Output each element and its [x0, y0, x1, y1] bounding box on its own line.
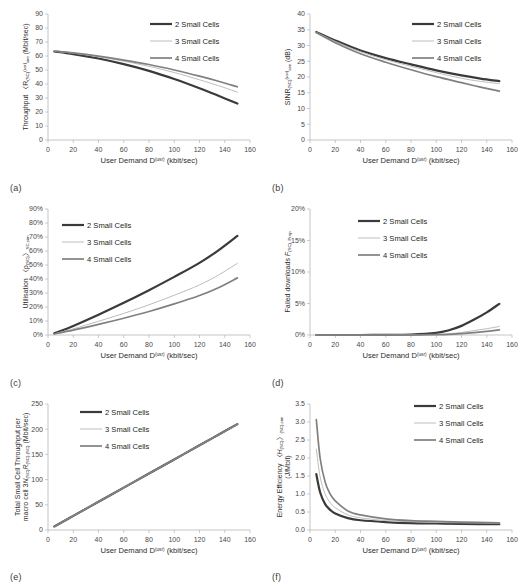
svg-text:3 Small Cells: 3 Small Cells: [383, 234, 428, 243]
svg-text:100: 100: [168, 536, 180, 543]
svg-text:30%: 30%: [29, 289, 43, 296]
svg-text:20%: 20%: [291, 205, 305, 212]
svg-text:120: 120: [194, 341, 206, 348]
svg-text:4 Small Cells: 4 Small Cells: [437, 54, 482, 63]
svg-text:40: 40: [357, 341, 365, 348]
x-axis-label: User Demand D(usr) (kbit/sec): [49, 546, 249, 555]
plot-area-b: 05101520253035400204060801001201401602 S…: [262, 0, 524, 172]
svg-text:10: 10: [297, 105, 305, 112]
svg-text:2 Small Cells: 2 Small Cells: [437, 20, 482, 29]
svg-text:4 Small Cells: 4 Small Cells: [87, 255, 132, 264]
svg-text:1.0: 1.0: [295, 490, 305, 497]
chart-panel-b: 05101520253035400204060801001201401602 S…: [262, 0, 524, 195]
plot-area-e: 0501001502002500204060801001201401602 Sm…: [0, 390, 262, 562]
svg-text:1.5: 1.5: [295, 472, 305, 479]
svg-text:140: 140: [219, 341, 231, 348]
y-axis-label: Energy Efficiency 〈H(SC)〉(SC),sim(J/Mbit…: [276, 392, 292, 542]
y-axis-label: Total Small Cell Throughput permacro cel…: [14, 392, 30, 542]
svg-text:2.5: 2.5: [295, 436, 305, 443]
x-axis-label: User Demand D(usr) (kbit/sec): [311, 546, 511, 555]
svg-text:150: 150: [31, 451, 43, 458]
y-axis-label: Throughput 〈R(SC)(usr)sim (Mbit/sec): [22, 2, 31, 152]
svg-text:0.5: 0.5: [295, 508, 305, 515]
plot-area-a: 0102030405060708090020406080100120140160…: [0, 0, 262, 172]
svg-text:15%: 15%: [291, 237, 305, 244]
svg-text:20: 20: [35, 108, 43, 115]
svg-text:30: 30: [297, 42, 305, 49]
svg-text:160: 160: [506, 146, 518, 153]
svg-text:2 Small Cells: 2 Small Cells: [175, 20, 220, 29]
panel-label: (f): [272, 572, 281, 582]
svg-text:20: 20: [297, 73, 305, 80]
svg-text:20%: 20%: [29, 303, 43, 310]
svg-text:15: 15: [297, 89, 305, 96]
panel-label: (a): [10, 183, 22, 193]
svg-text:100: 100: [430, 536, 442, 543]
svg-text:160: 160: [506, 341, 518, 348]
svg-text:2 Small Cells: 2 Small Cells: [87, 221, 132, 230]
svg-text:120: 120: [456, 536, 468, 543]
svg-text:140: 140: [481, 536, 493, 543]
svg-text:0: 0: [39, 136, 43, 143]
svg-text:100: 100: [430, 341, 442, 348]
svg-text:80: 80: [35, 24, 43, 31]
svg-text:60: 60: [120, 341, 128, 348]
svg-text:4 Small Cells: 4 Small Cells: [383, 251, 428, 260]
svg-text:30: 30: [35, 94, 43, 101]
svg-text:50: 50: [35, 66, 43, 73]
svg-text:60: 60: [382, 341, 390, 348]
svg-text:2 Small Cells: 2 Small Cells: [105, 408, 150, 417]
svg-text:40: 40: [357, 536, 365, 543]
svg-text:20: 20: [69, 146, 77, 153]
svg-text:40: 40: [95, 146, 103, 153]
svg-text:80: 80: [407, 146, 415, 153]
plot-area-c: 0%10%20%30%40%50%60%70%80%90%02040608010…: [0, 195, 262, 367]
svg-text:60: 60: [120, 536, 128, 543]
svg-text:70: 70: [35, 38, 43, 45]
svg-text:2.0: 2.0: [295, 454, 305, 461]
svg-text:10: 10: [35, 122, 43, 129]
svg-text:2 Small Cells: 2 Small Cells: [439, 402, 484, 411]
svg-text:120: 120: [194, 536, 206, 543]
chart-panel-c: 0%10%20%30%40%50%60%70%80%90%02040608010…: [0, 195, 262, 390]
svg-text:3.5: 3.5: [295, 400, 305, 407]
svg-text:80: 80: [145, 341, 153, 348]
svg-text:50: 50: [35, 501, 43, 508]
svg-text:3 Small Cells: 3 Small Cells: [437, 37, 482, 46]
svg-text:5%: 5%: [295, 300, 305, 307]
svg-text:200: 200: [31, 426, 43, 433]
svg-text:0: 0: [46, 536, 50, 543]
svg-text:4 Small Cells: 4 Small Cells: [105, 442, 150, 451]
svg-text:0%: 0%: [295, 331, 305, 338]
y-axis-label: SINR(SC)(usr)sim (dB): [284, 2, 293, 152]
chart-panel-a: 0102030405060708090020406080100120140160…: [0, 0, 262, 195]
svg-text:0: 0: [308, 146, 312, 153]
svg-text:80: 80: [407, 536, 415, 543]
svg-text:5: 5: [301, 121, 305, 128]
svg-text:4 Small Cells: 4 Small Cells: [175, 54, 220, 63]
svg-text:80: 80: [407, 341, 415, 348]
svg-text:3 Small Cells: 3 Small Cells: [105, 425, 150, 434]
svg-text:60: 60: [35, 52, 43, 59]
svg-text:90%: 90%: [29, 205, 43, 212]
svg-text:100: 100: [31, 476, 43, 483]
x-axis-label: User Demand D(usr) (kbit/sec): [49, 156, 249, 165]
svg-text:40: 40: [95, 341, 103, 348]
svg-text:3.0: 3.0: [295, 418, 305, 425]
svg-text:140: 140: [481, 146, 493, 153]
plot-area-f: 0.00.51.01.52.02.53.03.50204060801001201…: [262, 390, 524, 562]
svg-text:40: 40: [297, 10, 305, 17]
chart-panel-d: 0%5%10%15%20%0204060801001201401602 Smal…: [262, 195, 524, 390]
svg-text:80%: 80%: [29, 219, 43, 226]
svg-text:40: 40: [357, 146, 365, 153]
svg-text:0: 0: [308, 341, 312, 348]
svg-text:0: 0: [301, 136, 305, 143]
figure-sheet: 0102030405060708090020406080100120140160…: [0, 0, 524, 584]
svg-text:3 Small Cells: 3 Small Cells: [87, 238, 132, 247]
svg-text:100: 100: [430, 146, 442, 153]
svg-text:70%: 70%: [29, 233, 43, 240]
svg-text:20: 20: [331, 146, 339, 153]
svg-text:160: 160: [506, 536, 518, 543]
svg-text:20: 20: [69, 536, 77, 543]
svg-text:140: 140: [219, 146, 231, 153]
